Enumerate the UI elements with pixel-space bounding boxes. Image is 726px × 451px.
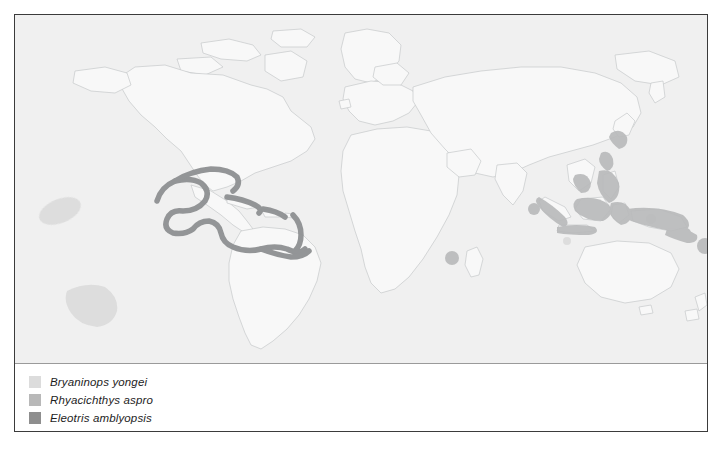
- legend-swatch-rhyacichthys-aspro: [29, 394, 41, 406]
- range-dot-indian-ocean: [445, 251, 459, 265]
- range-java: [557, 225, 597, 235]
- world-map-panel[interactable]: [15, 15, 707, 363]
- legend-label-rhyacichthys-aspro: Rhyacichthys aspro: [50, 394, 153, 406]
- legend-item-bryaninops-yongei[interactable]: Bryaninops yongei: [29, 373, 707, 391]
- range-dot-west-sumatra: [528, 203, 540, 215]
- land-nz-south: [685, 309, 699, 321]
- legend-item-eleotris-amblyopsis[interactable]: Eleotris amblyopsis: [29, 409, 707, 427]
- world-map-svg[interactable]: [15, 15, 707, 363]
- distribution-map-figure: Bryaninops yongei Rhyacichthys aspro Ele…: [14, 14, 708, 432]
- range-dot-pacific-2: [563, 237, 571, 245]
- legend-label-bryaninops-yongei: Bryaninops yongei: [50, 376, 147, 388]
- legend-label-eleotris-amblyopsis: Eleotris amblyopsis: [50, 412, 152, 424]
- land-uk: [339, 99, 351, 109]
- legend-item-rhyacichthys-aspro[interactable]: Rhyacichthys aspro: [29, 391, 707, 409]
- land-tasmania: [639, 305, 653, 315]
- map-legend: Bryaninops yongei Rhyacichthys aspro Ele…: [15, 364, 707, 431]
- legend-swatch-eleotris-amblyopsis: [29, 412, 41, 424]
- legend-swatch-bryaninops-yongei: [29, 376, 41, 388]
